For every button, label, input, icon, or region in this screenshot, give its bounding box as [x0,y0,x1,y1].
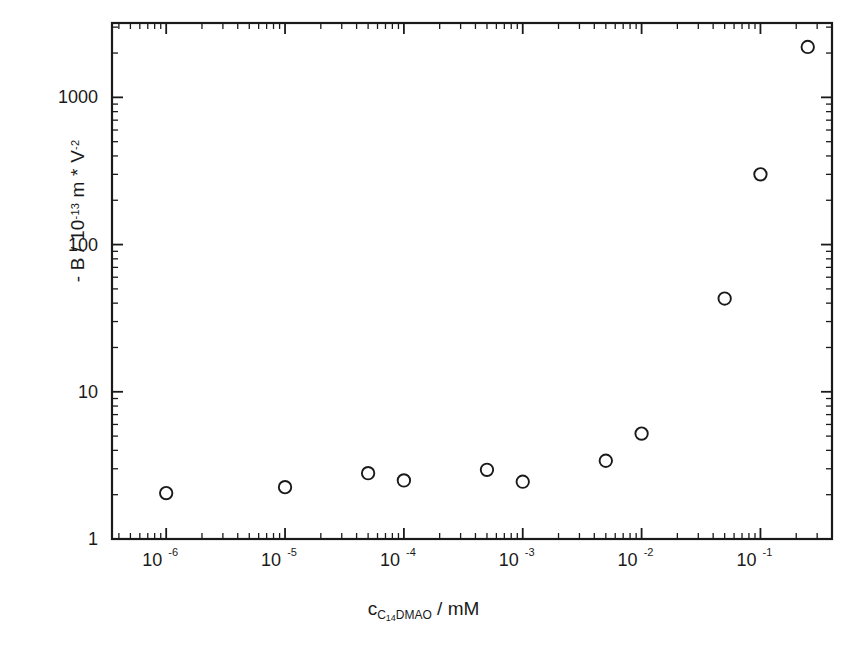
x-axis-tick-labels: 10-610-510-410-310-210-1 [142,546,772,570]
svg-text:10: 10 [736,550,756,570]
svg-text:-5: -5 [287,546,297,558]
x-axis-label-sub-post: DMAO [396,608,432,622]
x-axis-label-sub-number: 14 [386,613,396,623]
y-axis-label-mid: m * V [67,150,88,203]
svg-text:-6: -6 [168,546,178,558]
x-axis-label: cC14DMAO / mM [0,598,847,623]
x-axis-label-sub-pre: C [377,608,386,622]
svg-text:-3: -3 [525,546,535,558]
figure-container: 10-610-510-410-310-210-1 1101001000 - B … [0,0,847,646]
y-axis-label-text: - B / 10 [67,219,88,282]
data-point [517,476,529,488]
x-axis-label-main: c [368,598,378,619]
data-point [600,455,612,467]
svg-text:-4: -4 [406,546,416,558]
svg-text:10: 10 [261,550,281,570]
data-point [635,427,647,439]
svg-text:-1: -1 [763,546,773,558]
caption-fragment [0,630,847,646]
svg-text:1: 1 [88,529,98,549]
data-points [160,41,814,500]
data-point [398,474,410,486]
data-point [481,464,493,476]
x-axis-label-unit: / mM [432,598,480,619]
data-point [754,168,766,180]
svg-text:10: 10 [499,550,519,570]
data-point [802,41,814,53]
svg-text:10: 10 [78,382,98,402]
y-axis-exponent-1: -13 [69,203,81,220]
svg-text:-2: -2 [644,546,654,558]
data-point [718,292,730,304]
plot-frame [112,23,832,539]
data-point [362,467,374,479]
data-point [160,487,172,499]
svg-text:10: 10 [142,550,162,570]
svg-text:10: 10 [380,550,400,570]
y-axis-ticks [112,27,832,539]
y-axis-exponent-2: -2 [69,140,81,150]
x-axis-ticks [119,23,832,539]
y-axis-label: - B / 10-13 m * V-2 [67,61,89,361]
svg-text:10: 10 [618,550,638,570]
scatter-plot: 10-610-510-410-310-210-1 1101001000 [0,0,847,646]
data-point [279,481,291,493]
